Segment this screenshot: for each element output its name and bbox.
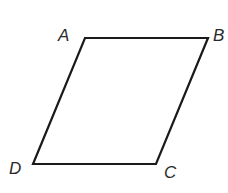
parallelogram-diagram: A B C D [0,0,228,193]
parallelogram-abcd [33,38,208,164]
vertex-label-b: B [213,26,224,45]
vertex-label-a: A [57,26,69,45]
vertex-label-c: C [164,163,177,182]
vertex-label-d: D [9,159,21,178]
